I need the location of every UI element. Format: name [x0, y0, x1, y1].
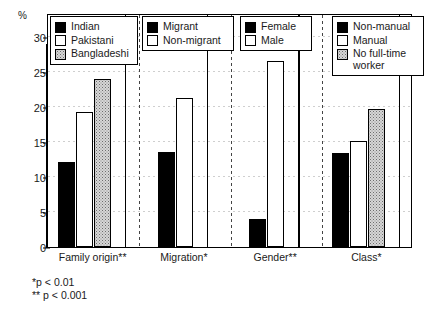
legend-item: Non-migrant — [147, 35, 228, 47]
footnotes: *p < 0.01 ** p < 0.001 — [32, 276, 87, 302]
legend-swatch-open-icon — [55, 35, 66, 46]
category-label: Family origin** — [59, 251, 127, 263]
legend-label: Bangladeshi — [71, 48, 129, 60]
bar — [176, 98, 193, 247]
legend-swatch-solid-icon — [245, 22, 256, 33]
bar — [158, 152, 175, 247]
legend-swatch-solid-icon — [147, 22, 158, 33]
legend-label: Manual — [353, 35, 387, 47]
legend-label: Non-manual — [353, 21, 410, 33]
legend-label: Pakistani — [71, 35, 114, 47]
bar — [267, 61, 284, 248]
legend-swatch-solid-icon — [55, 22, 66, 33]
legend-swatch-dotted-icon — [55, 49, 66, 60]
footnote-line-2: ** p < 0.001 — [32, 289, 87, 302]
group-separator — [139, 15, 140, 247]
legend-label: Indian — [71, 21, 100, 33]
group-separator — [322, 15, 323, 247]
legend-label: Non-migrant — [163, 35, 221, 47]
legend-swatch-open-icon — [337, 35, 348, 46]
legend-label: Male — [261, 35, 284, 47]
bar — [368, 109, 385, 247]
legend-swatch-solid-icon — [337, 22, 348, 33]
legend-swatch-dotted-icon — [337, 49, 348, 60]
legend-family-origin: IndianPakistaniBangladeshi — [50, 16, 138, 65]
legend-swatch-open-icon — [245, 35, 256, 46]
category-label: Migration* — [160, 251, 207, 263]
bar — [76, 112, 93, 248]
category-label: Class* — [351, 251, 381, 263]
legend-item: Manual — [337, 35, 418, 47]
legend-migration: MigrantNon-migrant — [142, 16, 234, 51]
legend-item: Migrant — [147, 21, 228, 33]
legend-label: Migrant — [163, 21, 198, 33]
legend-swatch-open-icon — [147, 35, 158, 46]
legend-item: No full-time worker — [337, 48, 418, 71]
bar — [350, 141, 367, 247]
legend-item: Bangladeshi — [55, 48, 132, 60]
y-axis: 051015202530 — [8, 0, 46, 318]
legend-item: Pakistani — [55, 35, 132, 47]
bar — [94, 79, 111, 247]
legend-item: Male — [245, 35, 306, 47]
bar — [58, 162, 75, 247]
legend-item: Indian — [55, 21, 132, 33]
legend-label: No full-time worker — [353, 48, 406, 71]
footnote-line-1: *p < 0.01 — [32, 276, 87, 289]
legend-gender: FemaleMale — [240, 16, 312, 51]
legend-label: Female — [261, 21, 296, 33]
bar — [332, 153, 349, 247]
legend-item: Female — [245, 21, 306, 33]
category-label: Gender** — [254, 251, 297, 263]
bar — [249, 219, 266, 247]
legend-class: Non-manualManualNo full-time worker — [332, 16, 424, 76]
legend-item: Non-manual — [337, 21, 418, 33]
chart-figure: % 051015202530 Family origin**Migration*… — [0, 0, 429, 318]
